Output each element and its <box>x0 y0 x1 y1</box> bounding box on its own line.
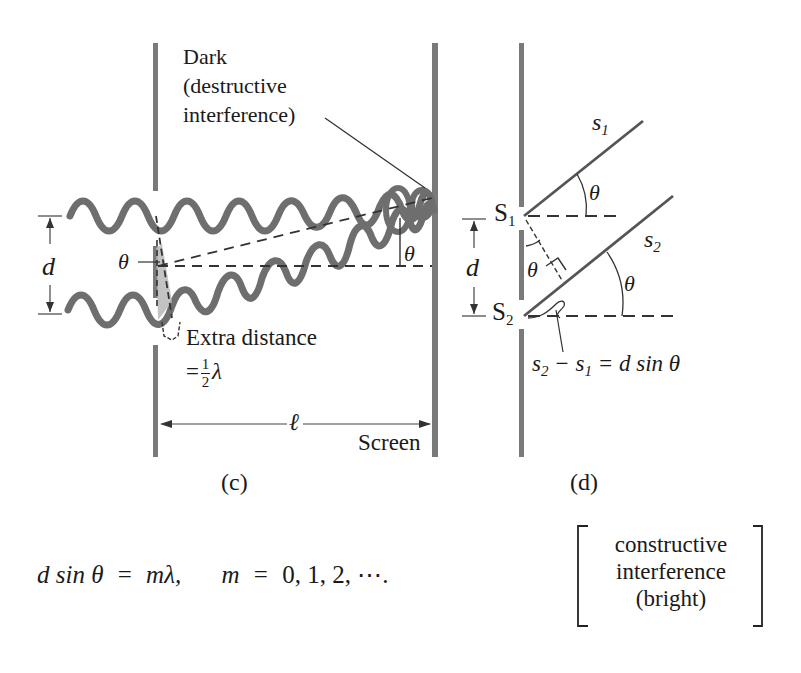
theta-mid-label: θ <box>527 258 538 282</box>
theta-right-label: θ <box>404 242 415 266</box>
d-label-c: d <box>42 255 55 279</box>
slit-barrier-d-middle <box>519 230 524 300</box>
ray-s1 <box>524 121 643 216</box>
dark-label: Dark (destructive interference) <box>183 42 295 129</box>
extra-distance-equation: =12λ <box>186 352 222 392</box>
slit-barrier-d-bottom <box>519 329 524 457</box>
dark-leader <box>325 118 425 188</box>
slit-barrier-bottom <box>153 345 158 457</box>
theta-left-label: θ <box>118 250 129 274</box>
s2-ray-label: s2 <box>644 227 661 259</box>
one-half-fraction: 12 <box>201 357 210 390</box>
slit-barrier-d-top <box>519 43 524 207</box>
extra-distance-label: Extra distance <box>186 326 317 350</box>
constructive-interference-note: constructive interference (bright) <box>584 531 758 612</box>
ell-label: ℓ <box>289 410 299 434</box>
d-label-d: d <box>466 256 479 280</box>
theta-top-label: θ <box>589 181 600 205</box>
caption-c: (c) <box>221 470 248 494</box>
s1-ray-label: s1 <box>592 110 609 142</box>
caption-d: (d) <box>570 470 598 494</box>
screen-barrier <box>432 43 438 457</box>
S1-label: S1 <box>494 201 515 233</box>
theta-bottom-label: θ <box>624 272 635 296</box>
S2-label: S2 <box>492 300 513 332</box>
path-difference-label: s2 − s1 = d sin θ <box>532 352 680 383</box>
slit-barrier-top <box>153 43 158 191</box>
screen-label: Screen <box>358 431 421 455</box>
bright-fringe-equation: d sin θ = mλ, m = 0, 1, 2, ⋯. <box>37 560 388 589</box>
